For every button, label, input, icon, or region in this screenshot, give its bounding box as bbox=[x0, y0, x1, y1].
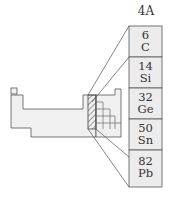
group-4a-column bbox=[88, 95, 96, 129]
element-lead: 82 Pb bbox=[129, 152, 162, 183]
group-label: 4A bbox=[129, 4, 163, 18]
element-silicon: 14 Si bbox=[129, 57, 162, 88]
periodic-table-outline bbox=[11, 88, 121, 137]
element-carbon: 6 C bbox=[129, 26, 162, 57]
element-symbol: Ge bbox=[129, 103, 162, 115]
element-symbol: Sn bbox=[129, 134, 162, 146]
element-tin: 50 Sn bbox=[129, 119, 162, 150]
element-symbol: Pb bbox=[129, 167, 162, 179]
element-symbol: Si bbox=[129, 72, 162, 84]
element-germanium: 32 Ge bbox=[129, 88, 162, 119]
element-symbol: C bbox=[129, 41, 162, 53]
